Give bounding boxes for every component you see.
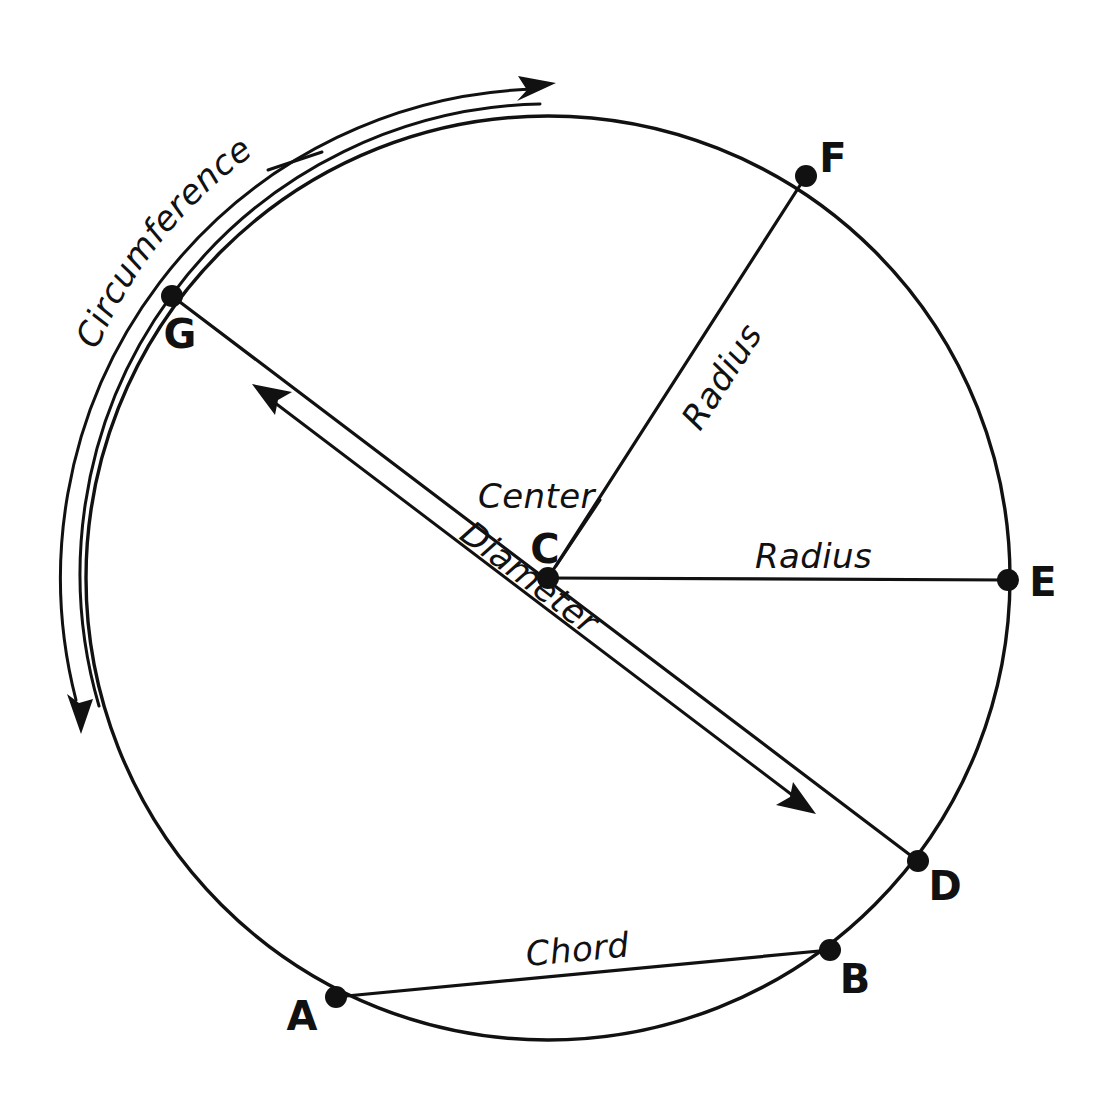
point-label-f: F xyxy=(819,135,846,181)
circumference-arrow xyxy=(61,76,556,734)
point-label-a: A xyxy=(287,993,318,1039)
label-radius-upper: Radius xyxy=(673,316,770,436)
circumference-arrow-outer-arc xyxy=(61,89,538,700)
radius-segment-ce xyxy=(548,578,1008,580)
point-label-d: D xyxy=(928,863,961,909)
point-dot-e xyxy=(997,569,1019,591)
label-center: Center xyxy=(478,476,596,516)
point-label-e: E xyxy=(1029,559,1056,605)
label-chord: Chord xyxy=(524,924,631,974)
point-dot-f xyxy=(795,165,817,187)
point-dot-g xyxy=(161,285,183,307)
label-radius-right: Radius xyxy=(755,536,872,576)
point-label-b: B xyxy=(840,956,871,1002)
point-label-g: G xyxy=(164,311,197,357)
circumference-arrow-inner-arc xyxy=(80,104,540,706)
circle-diagram: Circumference Radius Center Diameter Rad… xyxy=(0,0,1110,1102)
point-label-c: C xyxy=(530,526,559,572)
point-dot-b xyxy=(819,939,841,961)
point-dot-a xyxy=(325,986,347,1008)
circle-diagram-canvas: Circumference Radius Center Diameter Rad… xyxy=(0,0,1110,1102)
point-dot-d xyxy=(907,850,929,872)
circumference-arrowhead-bottom xyxy=(67,694,93,734)
